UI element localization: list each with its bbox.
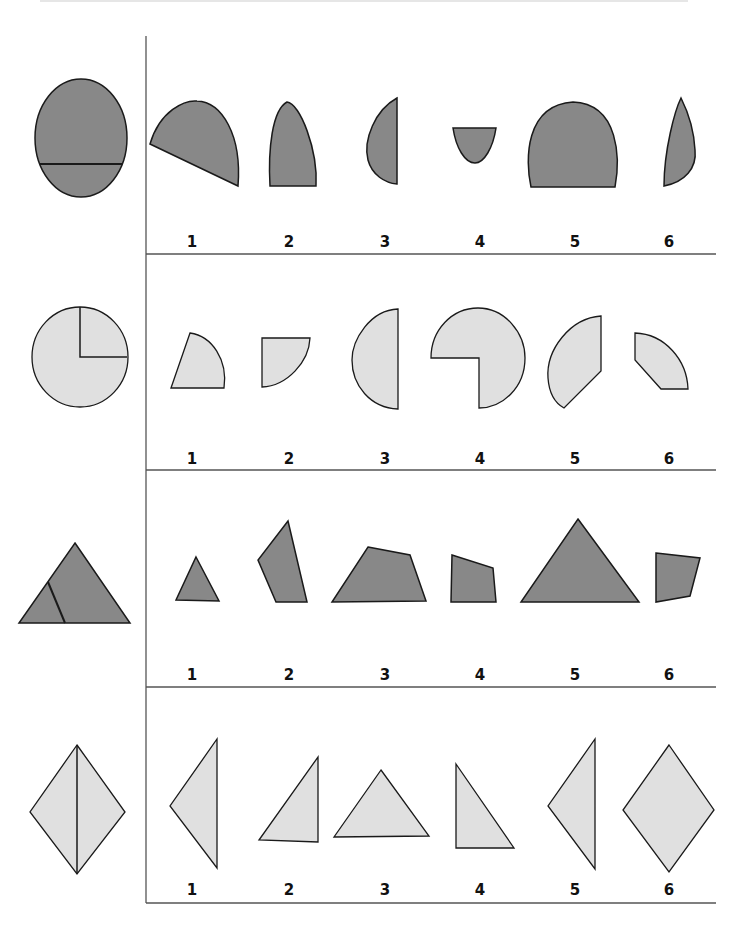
row3-label-3: 3	[380, 666, 390, 684]
row3-option-1-shape[interactable]	[176, 557, 219, 601]
row2-option-4-shape[interactable]	[431, 308, 525, 408]
row2-option-1-shape[interactable]	[171, 333, 225, 388]
row1-label-4: 4	[475, 233, 485, 251]
row1-option-6-shape[interactable]	[664, 98, 695, 186]
row2-label-2: 2	[284, 450, 294, 468]
row4-option-4-shape[interactable]	[456, 764, 514, 848]
row4-labels: 1 2 3 4 5 6	[187, 881, 674, 899]
row3-label-1: 1	[187, 666, 197, 684]
row2-option-5-shape[interactable]	[548, 316, 601, 408]
row4-option-1-shape[interactable]	[170, 739, 217, 868]
row3-option-4-shape[interactable]	[451, 555, 496, 602]
row3-label-6: 6	[664, 666, 674, 684]
row3-label-2: 2	[284, 666, 294, 684]
row1-label-5: 5	[570, 233, 580, 251]
row4-label-4: 4	[475, 881, 485, 899]
row2-option-6-shape[interactable]	[635, 333, 688, 389]
row1-option-3-shape[interactable]	[367, 98, 397, 184]
row4-label-5: 5	[570, 881, 580, 899]
row3-option-3-shape[interactable]	[332, 547, 426, 602]
row2-label-5: 5	[570, 450, 580, 468]
row-2	[32, 307, 688, 409]
reference-oval	[35, 79, 127, 197]
row4-option-5-shape[interactable]	[548, 739, 595, 869]
row4-label-1: 1	[187, 881, 197, 899]
row2-label-3: 3	[380, 450, 390, 468]
row1-option-5-shape[interactable]	[528, 102, 617, 187]
reference-circle-quarter	[32, 307, 128, 407]
row3-labels: 1 2 3 4 5 6	[187, 666, 674, 684]
row1-label-3: 3	[380, 233, 390, 251]
reference-rhombus	[30, 745, 125, 874]
row2-labels: 1 2 3 4 5 6	[187, 450, 674, 468]
row4-label-2: 2	[284, 881, 294, 899]
row-1	[35, 79, 695, 197]
row2-label-4: 4	[475, 450, 485, 468]
row3-label-5: 5	[570, 666, 580, 684]
reference-triangle	[19, 543, 130, 623]
row2-label-1: 1	[187, 450, 197, 468]
row1-label-1: 1	[187, 233, 197, 251]
puzzle-diagram: 1 2 3 4 5 6 1 2 3 4 5 6	[0, 0, 749, 933]
row3-option-6-shape[interactable]	[656, 553, 700, 602]
row1-label-6: 6	[664, 233, 674, 251]
row4-option-3-shape[interactable]	[334, 770, 429, 837]
row1-label-2: 2	[284, 233, 294, 251]
row1-option-4-shape[interactable]	[453, 128, 496, 163]
row3-label-4: 4	[475, 666, 485, 684]
row4-label-3: 3	[380, 881, 390, 899]
row2-label-6: 6	[664, 450, 674, 468]
row4-label-6: 6	[664, 881, 674, 899]
row1-option-2-shape[interactable]	[270, 102, 317, 186]
row2-option-2-shape[interactable]	[262, 338, 310, 387]
row-3	[19, 519, 700, 623]
row3-option-2-shape[interactable]	[258, 521, 307, 602]
row4-option-6-shape[interactable]	[623, 745, 714, 872]
row1-labels: 1 2 3 4 5 6	[187, 233, 674, 251]
row3-option-5-shape[interactable]	[521, 519, 639, 602]
row4-option-2-shape[interactable]	[259, 757, 318, 842]
row1-option-1-shape[interactable]	[150, 101, 239, 186]
row2-option-3-shape[interactable]	[352, 309, 398, 409]
row-4	[30, 739, 714, 874]
